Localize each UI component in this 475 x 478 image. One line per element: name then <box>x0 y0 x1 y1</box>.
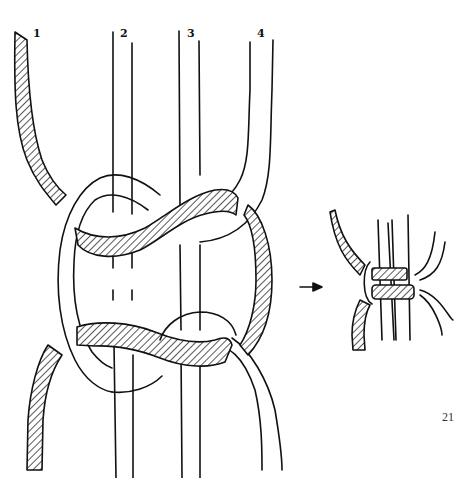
working-cord-1 <box>15 32 272 470</box>
cord-label-3: 3 <box>187 27 195 40</box>
diagram-canvas: 1 2 3 4 <box>0 0 475 478</box>
tightened-knot <box>330 210 453 350</box>
cord-label-1: 1 <box>33 27 41 40</box>
filler-cord-3 <box>179 31 200 478</box>
arrow-icon <box>300 283 322 291</box>
cord-label-2: 2 <box>120 27 128 40</box>
cord-label-4: 4 <box>257 27 265 40</box>
page-number: 21 <box>442 410 454 425</box>
working-cord-4 <box>58 40 282 470</box>
knot-diagram: 1 2 3 4 21 <box>0 0 475 478</box>
